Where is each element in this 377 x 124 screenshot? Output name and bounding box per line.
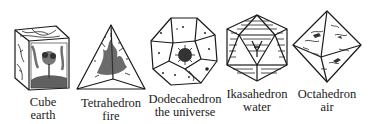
cube-earth-icon [12, 24, 72, 92]
dodecahedron-universe-icon [149, 15, 219, 89]
dodecahedron-solid [149, 15, 219, 89]
octahedron-label: Octahedron air [277, 88, 377, 114]
ikasahedron-solid [225, 13, 289, 83]
tetrahedron-solid [75, 23, 147, 91]
ikasahedron-water-icon [225, 13, 289, 83]
octahedron-air-icon [291, 9, 363, 84]
cube-solid [12, 24, 72, 92]
octahedron-solid [291, 9, 363, 84]
tetrahedron-fire-icon [75, 23, 147, 91]
element-name: air [277, 101, 377, 114]
